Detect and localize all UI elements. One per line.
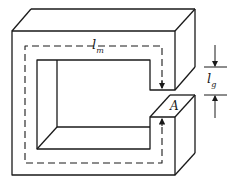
inner-window-depth (37, 60, 150, 149)
mean-path-label: lm (92, 38, 104, 55)
area-label: A (170, 100, 179, 112)
mean-path-dashed (25, 46, 162, 163)
upper-arm-side-face (175, 9, 195, 90)
core-drawing (0, 0, 237, 184)
core-top-face (12, 9, 195, 31)
diagram-canvas: lm lg A (0, 0, 237, 184)
gap-length-label: lg (207, 72, 216, 89)
